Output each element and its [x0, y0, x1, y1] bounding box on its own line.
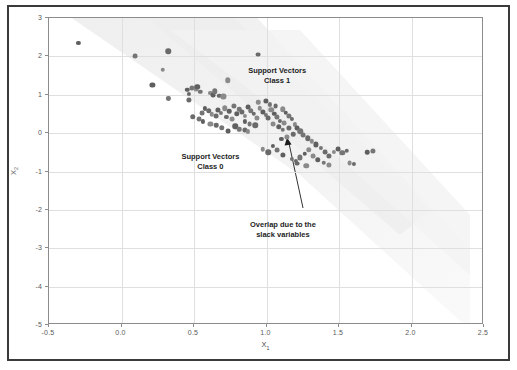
x-tickmark: [121, 324, 122, 327]
scatter-point: [260, 147, 265, 152]
x-tick-label: 0.5: [188, 329, 198, 336]
figure-screenshot: -0.50.00.51.01.52.02.5-5-4-3-2-10123Supp…: [0, 0, 517, 370]
annotation-line: Overlap due to the: [250, 220, 316, 230]
scatter-point: [225, 129, 230, 134]
y-tickmark: [45, 286, 48, 287]
x-tick-label: 1.0: [260, 329, 270, 336]
x-axis-label: X1: [261, 340, 269, 351]
scatter-point: [196, 117, 201, 122]
y-tickmark: [45, 171, 48, 172]
gridline-horizontal: [49, 248, 482, 249]
y-tickmark: [45, 247, 48, 248]
x-tickmark: [193, 324, 194, 327]
scatter-point: [230, 116, 235, 121]
y-tick-label: -1: [22, 167, 42, 174]
gridline-vertical: [412, 18, 413, 323]
x-tickmark: [411, 324, 412, 327]
x-tickmark: [483, 324, 484, 327]
scatter-point: [365, 150, 370, 155]
y-tick-label: 2: [22, 52, 42, 59]
scatter-point: [227, 109, 232, 114]
scatter-point: [302, 151, 307, 156]
scatter-point: [291, 132, 296, 137]
y-tick-label: -3: [22, 244, 42, 251]
scatter-point: [321, 161, 326, 166]
scatter-point: [344, 148, 349, 153]
annotation-line: slack variables: [250, 230, 316, 240]
scatter-point: [237, 127, 242, 132]
y-tickmark: [45, 132, 48, 133]
y-tick-label: 3: [22, 14, 42, 21]
y-tickmark: [45, 209, 48, 210]
gridline-horizontal: [49, 56, 482, 57]
x-tickmark: [48, 324, 49, 327]
scatter-point: [256, 52, 261, 57]
scatter-point: [160, 68, 165, 73]
plot-area: [48, 17, 483, 324]
y-tickmark: [45, 55, 48, 56]
x-tick-label: 2.0: [405, 329, 415, 336]
scatter-point: [270, 121, 275, 126]
scatter-point: [275, 147, 280, 152]
scatter-point: [214, 114, 219, 119]
y-tickmark: [45, 324, 48, 325]
x-tickmark: [266, 324, 267, 327]
gridline-horizontal: [49, 287, 482, 288]
x-tick-label: 0.0: [115, 329, 125, 336]
x-tick-label: 1.5: [333, 329, 343, 336]
gridline-vertical: [267, 18, 268, 323]
annotation-line: Class 0: [181, 162, 239, 172]
scatter-point: [198, 90, 203, 95]
scatter-point: [214, 123, 219, 128]
y-axis-label: X2: [9, 166, 20, 174]
gridline-horizontal: [49, 172, 482, 173]
scatter-point: [247, 121, 252, 126]
annotation-line: Class 1: [248, 76, 306, 86]
gridline-vertical: [339, 18, 340, 323]
y-tickmark: [45, 94, 48, 95]
y-tick-label: 0: [22, 129, 42, 136]
scatter-point: [273, 104, 278, 109]
scatter-point: [199, 111, 204, 116]
gridline-vertical: [122, 18, 123, 323]
gridline-horizontal: [49, 210, 482, 211]
y-tick-label: -2: [22, 205, 42, 212]
scatter-point: [133, 54, 138, 59]
x-tick-label: 2.5: [478, 329, 488, 336]
y-tickmark: [45, 17, 48, 18]
scatter-point: [266, 116, 271, 121]
scatter-point: [295, 161, 300, 166]
scatter-point: [256, 100, 261, 105]
annotation-overlap-slack-variables: Overlap due to theslack variables: [250, 220, 316, 240]
x-tickmark: [338, 324, 339, 327]
gridline-horizontal: [49, 133, 482, 134]
y-tick-label: -4: [22, 282, 42, 289]
x-tick-label: -0.5: [42, 329, 55, 336]
y-tick-label: 1: [22, 90, 42, 97]
annotation-support-vectors-class-0: Support VectorsClass 0: [181, 152, 239, 172]
gridline-horizontal: [49, 95, 482, 96]
scatter-point: [347, 160, 352, 165]
y-tick-label: -5: [22, 321, 42, 328]
scatter-point: [281, 128, 286, 133]
annotation-support-vectors-class-1: Support VectorsClass 1: [248, 66, 306, 86]
annotation-line: Support Vectors: [248, 66, 306, 76]
annotation-line: Support Vectors: [181, 152, 239, 162]
